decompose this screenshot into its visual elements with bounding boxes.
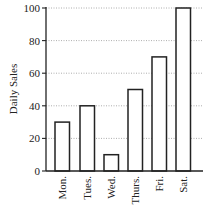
y-tick-label: 60 [29, 67, 41, 79]
bar-fri [152, 57, 167, 171]
y-ticks: 020406080100 [24, 2, 47, 177]
bar-wed [104, 155, 119, 171]
y-axis-title: Daily Sales [7, 64, 19, 114]
x-category-label: Fri. [153, 176, 165, 192]
y-tick-label: 0 [35, 165, 41, 177]
bar-sat [176, 8, 191, 171]
x-category-label: Thurs. [129, 176, 141, 205]
bars [55, 8, 191, 171]
x-category-label: Wed. [105, 176, 117, 199]
bar-tues [80, 106, 95, 171]
x-category-labels: Mon.Tues.Wed.Thurs.Fri.Sat. [56, 176, 189, 205]
x-category-label: Mon. [56, 176, 68, 200]
y-tick-label: 100 [24, 2, 41, 14]
x-category-label: Tues. [81, 176, 93, 200]
y-tick-label: 40 [29, 100, 41, 112]
bar-chart: 020406080100 Mon.Tues.Wed.Thurs.Fri.Sat.… [0, 0, 210, 217]
y-tick-label: 20 [29, 132, 41, 144]
y-tick-label: 80 [29, 35, 41, 47]
bar-thurs [128, 90, 143, 172]
x-category-label: Sat. [177, 176, 189, 193]
bar-mon [55, 122, 70, 171]
